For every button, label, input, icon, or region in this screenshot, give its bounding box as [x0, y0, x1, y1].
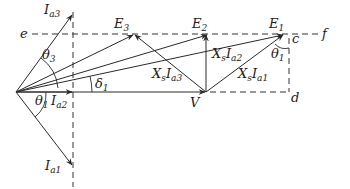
label-Ia3: Ia3 [43, 2, 61, 19]
phasor-E2 [16, 35, 207, 92]
label-d: d [291, 90, 299, 105]
label-XsIa3: XsIa3 [151, 66, 182, 83]
phasor-E1 [16, 35, 283, 92]
label-Ia1: Ia1 [44, 158, 61, 175]
label-theta1-left: θ1 [35, 93, 49, 110]
label-Ia2: Ia2 [50, 93, 68, 110]
label-E2: E2 [191, 16, 208, 33]
label-c: c [292, 31, 300, 46]
label-f: f [321, 26, 329, 41]
label-XsIa2: XsIa2 [211, 46, 242, 63]
label-V: V [190, 95, 201, 110]
label-E3: E3 [113, 16, 130, 33]
label-delta1: δ1 [95, 76, 109, 93]
label-XsIa1: XsIa1 [237, 66, 268, 83]
arc-delta1 [90, 76, 92, 92]
phasor-E3 [16, 35, 133, 92]
phasor-diagram: Ia3 e f E3 E2 E1 c d V θ3 δ1 θ1 Ia2 Ia1 … [0, 0, 350, 189]
label-theta3: θ3 [42, 47, 56, 64]
label-E1: E1 [268, 16, 284, 33]
phasor-XsIa3 [135, 35, 206, 92]
label-e: e [20, 26, 28, 41]
